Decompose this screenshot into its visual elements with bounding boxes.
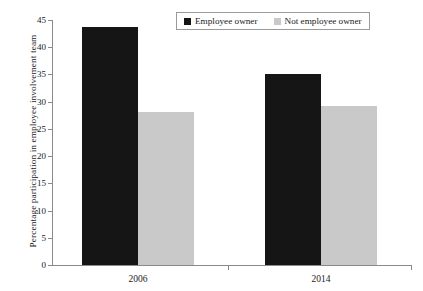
y-axis-line xyxy=(52,20,53,265)
x-axis-label-2006: 2006 xyxy=(129,274,148,284)
legend-label: Employee owner xyxy=(195,16,258,26)
y-axis-tick-mark xyxy=(48,183,52,184)
y-axis-tick-mark xyxy=(48,156,52,157)
legend-label: Not employee owner xyxy=(285,16,362,26)
x-axis-tick-mark xyxy=(228,265,229,270)
y-axis-tick-mark xyxy=(48,211,52,212)
y-axis-tick-label: 45 xyxy=(37,15,46,25)
bar-chart: Percentage participation in employee inv… xyxy=(0,0,423,291)
bar-2006-not-employee-owner xyxy=(138,112,194,265)
y-axis-tick-label: 20 xyxy=(37,151,46,161)
y-axis-tick-mark xyxy=(48,74,52,75)
legend-entry-employee-owner: Employee owner xyxy=(184,16,258,26)
y-axis-tick-label: 25 xyxy=(37,124,46,134)
y-axis-tick-mark xyxy=(48,265,52,266)
y-axis-tick-mark xyxy=(48,102,52,103)
plot-area: 051015202530354045 20062014 xyxy=(52,20,412,265)
y-axis-tick-mark xyxy=(48,238,52,239)
y-axis-tick-label: 35 xyxy=(37,69,46,79)
y-axis-tick-mark xyxy=(48,20,52,21)
y-axis-title: Percentage participation in employee inv… xyxy=(28,16,38,266)
x-axis-tick-mark xyxy=(411,265,412,270)
y-axis-tick-mark xyxy=(48,129,52,130)
x-axis-label-2014: 2014 xyxy=(312,274,331,284)
legend: Employee ownerNot employee owner xyxy=(176,12,370,30)
bar-2006-employee-owner xyxy=(82,27,138,265)
bar-2014-not-employee-owner xyxy=(321,106,377,265)
y-axis-tick-label: 5 xyxy=(42,233,47,243)
legend-swatch-icon xyxy=(274,18,281,25)
y-axis-tick-label: 0 xyxy=(42,260,47,270)
y-axis-tick-label: 15 xyxy=(37,178,46,188)
x-axis-line xyxy=(52,265,412,266)
y-axis-tick-label: 10 xyxy=(37,206,46,216)
y-axis-tick-mark xyxy=(48,47,52,48)
legend-entry-not-employee-owner: Not employee owner xyxy=(274,16,362,26)
bar-2014-employee-owner xyxy=(265,74,321,265)
y-axis-tick-label: 30 xyxy=(37,97,46,107)
legend-swatch-icon xyxy=(184,18,191,25)
y-axis-tick-label: 40 xyxy=(37,42,46,52)
